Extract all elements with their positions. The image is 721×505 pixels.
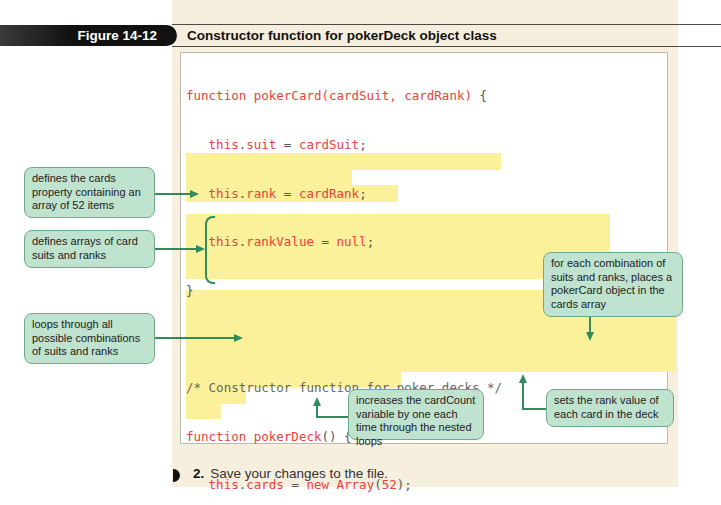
callout-arrays: defines arrays of card suits and ranks xyxy=(24,230,155,268)
arrow-line xyxy=(155,193,191,195)
figure-title: Constructor function for pokerDeck objec… xyxy=(187,25,497,46)
arrow-line xyxy=(155,337,235,339)
arrow-line xyxy=(589,317,591,333)
arrow-line xyxy=(316,416,348,418)
callout-increases-count: increases the cardCount variable by one … xyxy=(348,389,484,440)
callout-cards-property: defines the cards property containing an… xyxy=(24,167,155,218)
arrow-right-icon xyxy=(234,334,243,342)
arrow-right-icon xyxy=(190,190,199,198)
callout-rank-value: sets the rank value of each card in the … xyxy=(546,389,674,427)
code-line xyxy=(186,331,690,347)
figure-label: Figure 14-12 xyxy=(0,25,177,46)
arrays-brace xyxy=(205,216,215,284)
arrow-line xyxy=(522,408,546,410)
code-line: function pokerCard(cardSuit, cardRank) { xyxy=(186,88,690,104)
callout-places-card: for each combination of suits and ranks,… xyxy=(543,252,683,317)
arrow-up-icon xyxy=(313,397,321,406)
step-instruction: 2.Save your changes to the file. xyxy=(193,466,388,481)
arrow-right-icon xyxy=(196,245,205,253)
callout-loops: loops through all possible combinations … xyxy=(24,313,155,364)
arrow-down-icon xyxy=(586,332,594,341)
step-number: 2. xyxy=(193,466,204,481)
code-line: this.rank = cardRank; xyxy=(186,186,690,202)
arrow-up-icon xyxy=(519,374,527,383)
step-text: Save your changes to the file. xyxy=(210,466,388,481)
code-line: this.suit = cardSuit; xyxy=(186,137,690,153)
title-rule-bottom xyxy=(172,46,721,47)
code-line: this.rankValue = null; xyxy=(186,234,690,250)
arrow-line xyxy=(155,248,197,250)
arrow-line xyxy=(522,382,524,409)
